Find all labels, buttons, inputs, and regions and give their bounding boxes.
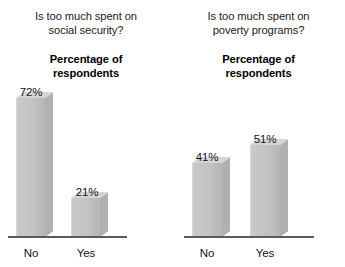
x-tick-label-yes: Yes — [245, 247, 285, 259]
bar-side-face — [100, 192, 108, 237]
bar-value-social-security-no: 72% — [10, 86, 52, 98]
x-tick-label-yes: Yes — [66, 247, 106, 259]
survey-bar-chart-figure: Is too much spent on social security? Pe… — [0, 0, 345, 267]
bar-front-face — [192, 163, 223, 237]
bar-value-poverty-programs-no: 41% — [186, 151, 228, 163]
bar-value-poverty-programs-yes: 51% — [244, 133, 286, 145]
plot-area-poverty-programs: 41% 51% No Yes — [172, 0, 345, 267]
bar-side-face — [280, 139, 288, 237]
bar-side-face — [45, 92, 53, 237]
x-axis-line — [184, 236, 314, 238]
x-axis-line — [8, 236, 127, 238]
chart-panel-social-security: Is too much spent on social security? Pe… — [0, 0, 172, 267]
bar-front-face — [250, 145, 281, 237]
bar-front-face — [16, 98, 46, 237]
bar-value-social-security-yes: 21% — [66, 186, 108, 198]
plot-area-social-security: 72% 21% No Yes — [0, 0, 172, 267]
chart-panel-poverty-programs: Is too much spent on poverty programs? P… — [172, 0, 345, 267]
bar-poverty-programs-no — [192, 163, 222, 237]
bar-front-face — [71, 198, 101, 237]
bar-social-security-no — [16, 98, 45, 237]
bar-social-security-yes — [71, 198, 100, 237]
x-tick-label-no: No — [11, 247, 51, 259]
x-tick-label-no: No — [187, 247, 227, 259]
bar-side-face — [222, 157, 230, 237]
bar-poverty-programs-yes — [250, 145, 280, 237]
